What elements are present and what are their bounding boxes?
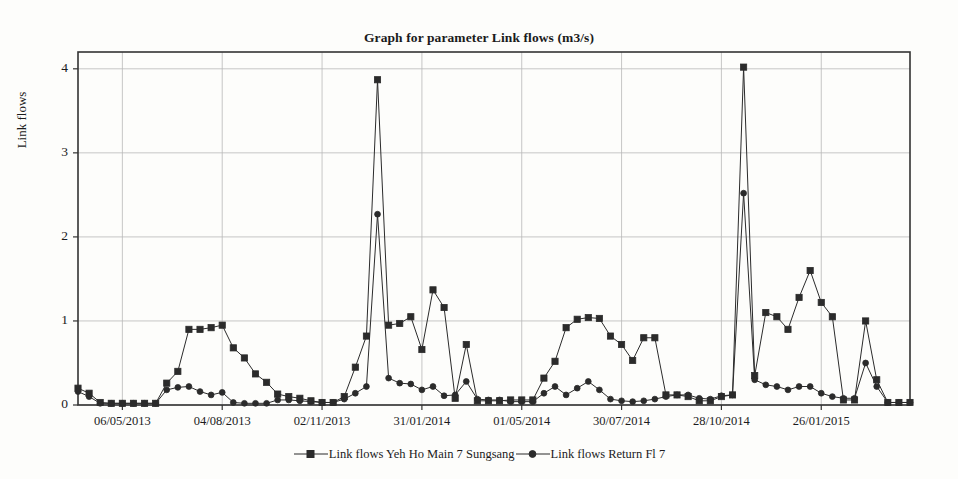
legend-label-1: Link flows Return Fl 7 [551,447,666,461]
data-point-circle [197,389,203,395]
data-point-circle [563,392,569,398]
x-tick-label: 31/01/2014 [367,414,477,429]
data-point-circle [75,389,81,395]
data-point-circle [530,399,536,405]
data-point-circle [142,400,148,406]
data-point-square [175,368,181,374]
data-point-circle [230,400,236,406]
y-tick-label: 1 [34,312,68,328]
chart-legend: Link flows Yeh Ho Main 7 Sungsang Link f… [0,446,958,462]
y-tick-label: 2 [34,228,68,244]
data-point-circle [275,397,281,403]
y-tick-label: 0 [34,396,68,412]
data-point-circle [596,387,602,393]
data-point-square [541,375,547,381]
legend-square-marker-icon [294,449,328,459]
data-point-circle [641,398,647,404]
data-point-square [607,333,613,339]
data-point-circle [652,396,658,402]
x-tick-label: 30/07/2014 [567,414,677,429]
data-point-circle [508,399,514,405]
y-tick-label: 4 [34,60,68,76]
data-point-circle [541,390,547,396]
data-point-square [441,304,447,310]
data-point-circle [253,400,259,406]
data-point-circle [153,400,159,406]
data-point-circle [341,396,347,402]
data-point-square [397,320,403,326]
data-point-circle [219,389,225,395]
data-point-circle [86,394,92,400]
data-point-circle [852,395,858,401]
data-point-square [618,341,624,347]
x-tick-label: 04/08/2013 [167,414,277,429]
data-point-square [574,316,580,322]
x-tick-label: 02/11/2013 [267,414,377,429]
data-point-circle [386,375,392,381]
data-point-circle [663,394,669,400]
data-point-circle [519,399,525,405]
data-point-square [774,314,780,320]
data-point-circle [97,400,103,406]
data-point-circle [552,384,558,390]
data-point-square [863,318,869,324]
data-point-square [230,345,236,351]
data-point-circle [807,384,813,390]
legend-circle-marker-icon [516,449,550,459]
data-point-square [585,314,591,320]
data-point-square [374,77,380,83]
data-point-circle [674,392,680,398]
data-point-square [275,391,281,397]
data-point-circle [719,393,725,399]
data-point-circle [452,392,458,398]
data-point-circle [608,396,614,402]
data-point-square [208,325,214,331]
data-point-circle [175,384,181,390]
x-tick-label: 06/05/2013 [67,414,177,429]
data-point-square [263,379,269,385]
data-point-circle [574,385,580,391]
x-tick-label: 01/05/2014 [467,414,577,429]
data-point-circle [785,387,791,393]
data-point-circle [841,395,847,401]
legend-item-1[interactable]: Link flows Return Fl 7 [515,446,666,462]
data-point-circle [397,380,403,386]
data-point-circle [297,398,303,404]
data-point-circle [430,384,436,390]
data-point-circle [375,211,381,217]
data-point-circle [319,400,325,406]
data-point-circle [408,381,414,387]
data-point-square [430,287,436,293]
data-point-circle [186,384,192,390]
data-point-square [829,314,835,320]
data-point-circle [308,399,314,405]
data-point-circle [208,392,214,398]
x-tick-label: 26/01/2015 [766,414,876,429]
data-point-circle [730,392,736,398]
legend-label-0: Link flows Yeh Ho Main 7 Sungsang [329,447,515,461]
data-point-circle [619,398,625,404]
data-point-square [219,322,225,328]
data-point-square [552,358,558,364]
data-point-circle [352,390,358,396]
data-point-circle [264,400,270,406]
data-point-circle [752,377,758,383]
data-point-square [596,315,602,321]
data-point-circle [286,397,292,403]
data-point-circle [330,400,336,406]
data-point-circle [630,399,636,405]
data-point-circle [874,384,880,390]
data-point-square [386,322,392,328]
data-point-square [652,335,658,341]
series-line-0 [78,67,910,403]
data-point-circle [364,384,370,390]
data-point-circle [242,400,248,406]
data-point-square [164,380,170,386]
data-point-square [241,355,247,361]
data-point-circle [486,397,492,403]
chart-title: Graph for parameter Link flows (m3/s) [0,30,958,46]
plot-frame [78,52,910,405]
data-point-circle [474,396,480,402]
legend-item-0[interactable]: Link flows Yeh Ho Main 7 Sungsang [293,446,515,462]
data-point-circle [108,400,114,406]
